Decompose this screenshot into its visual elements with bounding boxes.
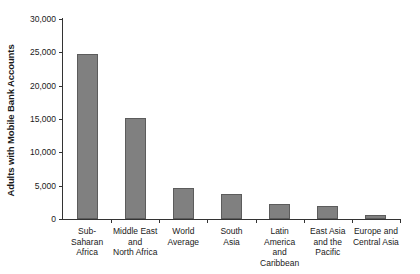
y-tick-label: 10,000	[30, 147, 56, 157]
y-tick-mark	[59, 86, 63, 87]
y-tick-label: 25,000	[30, 47, 56, 57]
y-tick-label: 5,000	[35, 181, 56, 191]
x-axis-category-label: Europe and Central Asia	[352, 226, 400, 247]
x-axis-category-label: Sub-Saharan Africa	[63, 226, 111, 258]
x-axis-line	[62, 219, 401, 220]
x-tick-mark	[352, 219, 353, 223]
x-tick-mark	[159, 219, 160, 223]
x-axis-category-label: Middle East and North Africa	[111, 226, 159, 258]
y-tick-label: 15,000	[30, 114, 56, 124]
x-tick-mark	[207, 219, 208, 223]
bar	[317, 206, 338, 219]
y-axis-title: Adults with Mobile Bank Accounts	[2, 18, 20, 223]
y-tick-mark	[59, 119, 63, 120]
y-tick-mark	[59, 186, 63, 187]
x-axis-category-label: South Asia	[207, 226, 255, 247]
y-tick-mark	[59, 52, 63, 53]
y-tick-mark	[59, 219, 63, 220]
bar	[173, 188, 194, 219]
x-tick-mark	[111, 219, 112, 223]
bar-chart-figure: Adults with Mobile Bank Accounts 05,0001…	[0, 0, 420, 274]
bar	[125, 118, 146, 219]
plot-area: 05,00010,00015,00020,00025,00030,000	[63, 19, 400, 219]
x-axis-category-label: Latin America and Caribbean	[256, 226, 304, 268]
bar	[77, 54, 98, 219]
y-tick-mark	[59, 152, 63, 153]
y-tick-label: 0	[51, 214, 56, 224]
x-tick-mark	[256, 219, 257, 223]
bar	[365, 215, 386, 219]
y-tick-mark	[59, 19, 63, 20]
y-tick-label: 20,000	[30, 81, 56, 91]
y-tick-label: 30,000	[30, 14, 56, 24]
x-axis-category-label: World Average	[159, 226, 207, 247]
x-axis-category-label: East Asia and the Pacific	[304, 226, 352, 258]
bar	[269, 204, 290, 219]
x-tick-mark	[400, 219, 401, 223]
bar	[221, 194, 242, 219]
x-tick-mark	[304, 219, 305, 223]
